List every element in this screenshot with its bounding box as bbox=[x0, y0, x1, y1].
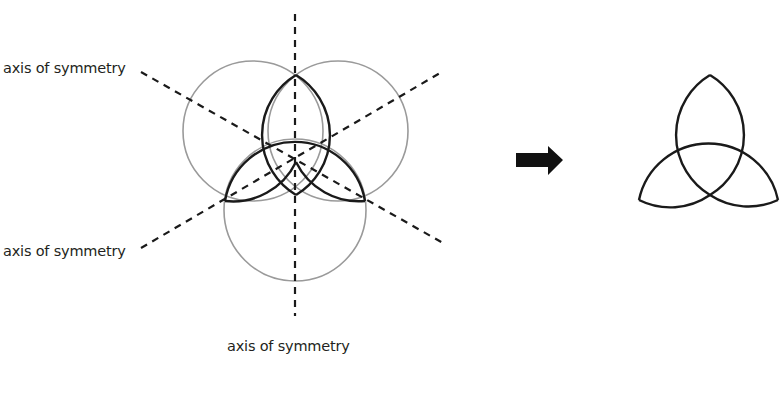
label-axis-lower-left: axis of symmetry bbox=[3, 243, 126, 259]
axis-diagonal-up bbox=[141, 73, 440, 248]
axes-of-symmetry bbox=[141, 14, 443, 316]
triquetra-result bbox=[639, 75, 778, 207]
circle-top-left bbox=[183, 61, 323, 201]
arrow-right-icon bbox=[516, 146, 563, 175]
axis-diagonal-down bbox=[141, 72, 443, 243]
label-axis-bottom: axis of symmetry bbox=[227, 338, 350, 354]
circle-top-right bbox=[268, 61, 408, 201]
label-axis-upper-left: axis of symmetry bbox=[3, 60, 126, 76]
